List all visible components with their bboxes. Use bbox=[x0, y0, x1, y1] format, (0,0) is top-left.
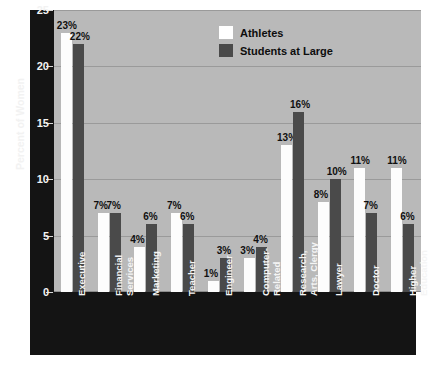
bar-athletes bbox=[318, 202, 329, 292]
bar-athletes bbox=[208, 281, 219, 292]
bar-value-label: 8% bbox=[314, 190, 328, 200]
x-axis-category-label: Computer- Related bbox=[261, 238, 282, 296]
x-axis-category-label: Executive bbox=[77, 238, 88, 296]
x-axis-category-label: Doctor bbox=[371, 238, 382, 296]
y-axis-title: Percent of Women bbox=[14, 64, 26, 184]
bar-athletes bbox=[244, 258, 255, 292]
bar-value-label: 7% bbox=[363, 201, 377, 211]
bar-athletes bbox=[134, 247, 145, 292]
x-axis-category-label: Teacher bbox=[187, 238, 198, 296]
chart-legend: Athletes Students at Large bbox=[219, 26, 369, 62]
bar-value-label: 1% bbox=[204, 269, 218, 279]
y-axis-tick-label: 5 bbox=[9, 231, 49, 242]
bar-athletes bbox=[281, 145, 292, 292]
bar-athletes bbox=[98, 213, 109, 292]
bar-value-label: 22% bbox=[70, 32, 90, 42]
bar-value-label: 16% bbox=[290, 100, 310, 110]
bar-athletes bbox=[391, 168, 402, 292]
bar-value-label: 11% bbox=[350, 156, 369, 166]
y-axis-tick-label: 0 bbox=[9, 287, 49, 298]
x-axis-category-label: Higher Education bbox=[408, 238, 429, 296]
bar-athletes bbox=[61, 33, 72, 292]
bar-value-label: 6% bbox=[400, 212, 414, 222]
legend-item: Athletes bbox=[219, 26, 369, 39]
legend-swatch-students-at-large bbox=[219, 44, 233, 57]
legend-label-students-at-large: Students at Large bbox=[240, 45, 333, 57]
bar-value-label: 6% bbox=[143, 212, 157, 222]
legend-item: Students at Large bbox=[219, 44, 369, 57]
x-axis-category-label: Engineer bbox=[224, 238, 235, 296]
bar-chart-figure: 23%22%7%7%4%6%7%6%1%3%3%4%13%16%8%10%11%… bbox=[0, 0, 432, 369]
legend-label-athletes: Athletes bbox=[240, 27, 283, 39]
x-axis-category-label: Marketing bbox=[151, 238, 162, 296]
x-axis-category-label: Financial Services bbox=[114, 238, 135, 296]
bar-value-label: 7% bbox=[107, 201, 121, 211]
bar-value-label: 7% bbox=[167, 201, 181, 211]
bar-value-label: 23% bbox=[57, 21, 77, 31]
x-axis-category-label: Research, Arts, Clergy bbox=[298, 238, 319, 296]
x-axis-category-label: Lawyer bbox=[334, 238, 345, 296]
bar-value-label: 3% bbox=[240, 246, 254, 256]
bar-athletes bbox=[354, 168, 365, 292]
y-axis-tick-label: 25 bbox=[9, 5, 49, 16]
bar-value-label: 6% bbox=[180, 212, 194, 222]
bar-athletes bbox=[171, 213, 182, 292]
bar-value-label: 11% bbox=[387, 156, 406, 166]
bar-value-label: 10% bbox=[327, 167, 347, 177]
legend-swatch-athletes bbox=[219, 26, 233, 39]
